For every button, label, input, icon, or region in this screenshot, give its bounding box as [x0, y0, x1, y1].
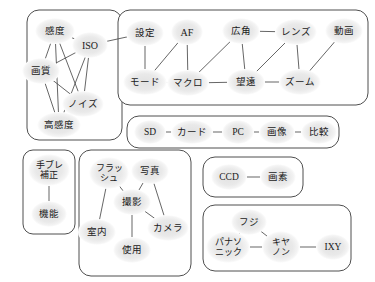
node-label-shitsunai: 室内 [87, 226, 107, 237]
node-label-ixy: IXY [325, 242, 342, 252]
node-label-camera: カメラ [153, 223, 183, 233]
node-tebure[interactable]: 手ブレ補正 [28, 154, 70, 186]
node-gazou[interactable]: 画像 [259, 120, 295, 144]
node-label-renzu: レンズ [281, 26, 311, 37]
node-flash[interactable]: フラッシュ [89, 157, 129, 189]
node-label-fuji: フジ [239, 217, 259, 227]
node-label-gaso: 画素 [268, 171, 288, 182]
node-iso[interactable]: ISO [72, 32, 108, 58]
node-label-koukando: 高感度 [44, 119, 74, 130]
node-label-kinou: 機能 [39, 208, 59, 219]
node-label-pc: PC [232, 127, 244, 137]
node-kinou[interactable]: 機能 [31, 201, 67, 227]
diagram-canvas: 感度ISO画質ノイズ高感度設定AF広角レンズ動画モードマクロ望遠ズームSDカード… [0, 0, 375, 282]
node-panasonic[interactable]: パナソニック [206, 231, 250, 263]
node-label-settei: 設定 [135, 27, 155, 38]
node-ccd[interactable]: CCD [211, 164, 247, 190]
node-label-shashin: 写真 [140, 165, 160, 176]
node-label-mode: モード [130, 77, 160, 87]
node-ixy[interactable]: IXY [316, 234, 350, 260]
node-label-iso: ISO [82, 40, 98, 51]
node-label-ccd: CCD [219, 172, 239, 182]
node-label-douga: 動画 [334, 26, 354, 36]
node-kando[interactable]: 感度 [35, 18, 75, 44]
node-renzu[interactable]: レンズ [275, 19, 317, 45]
node-label-gazou: 画像 [267, 126, 287, 137]
network-graph: 感度ISO画質ノイズ高感度設定AF広角レンズ動画モードマクロ望遠ズームSDカード… [0, 0, 375, 282]
node-sd[interactable]: SD [134, 120, 166, 144]
node-koukaku[interactable]: 広角 [222, 18, 260, 44]
node-label-panasonic: パナソニック [215, 237, 242, 257]
node-label-noizu: ノイズ [68, 98, 98, 109]
node-label-af: AF [181, 27, 194, 38]
node-shashin[interactable]: 写真 [131, 158, 169, 184]
node-label-gashitsu: 画質 [31, 65, 51, 76]
node-mode[interactable]: モード [123, 69, 167, 95]
node-noizu[interactable]: ノイズ [62, 91, 104, 117]
node-shitsunai[interactable]: 室内 [78, 219, 116, 245]
node-pc[interactable]: PC [222, 120, 254, 144]
node-label-hikaku: 比較 [309, 126, 329, 137]
node-label-koukaku: 広角 [231, 25, 251, 36]
node-label-zoom: ズーム [285, 76, 315, 87]
node-settei[interactable]: 設定 [126, 20, 164, 46]
node-kaado[interactable]: カード [171, 120, 213, 144]
node-label-bouen: 望遠 [236, 76, 256, 87]
node-koukando[interactable]: 高感度 [37, 112, 81, 138]
node-label-shiyou: 使用 [122, 244, 142, 255]
node-douga[interactable]: 動画 [325, 18, 363, 44]
node-canon[interactable]: キヤノン [262, 231, 300, 263]
node-gaso[interactable]: 画素 [260, 164, 296, 190]
node-af[interactable]: AF [171, 19, 203, 45]
node-shiyou[interactable]: 使用 [113, 237, 151, 263]
node-label-canon: キヤノン [272, 237, 290, 257]
node-label-satsuei: 撮影 [122, 196, 142, 207]
node-label-makuro: マクロ [173, 78, 203, 88]
node-zoom[interactable]: ズーム [279, 69, 321, 95]
node-label-kaado: カード [177, 127, 207, 137]
node-makuro[interactable]: マクロ [167, 70, 209, 96]
node-satsuei[interactable]: 撮影 [113, 189, 151, 215]
node-gashitsu[interactable]: 画質 [22, 58, 60, 84]
node-bouen[interactable]: 望遠 [227, 69, 265, 95]
node-fuji[interactable]: フジ [231, 209, 267, 235]
node-label-sd: SD [144, 127, 156, 137]
node-hikaku[interactable]: 比較 [301, 120, 337, 144]
node-camera[interactable]: カメラ [147, 215, 189, 241]
node-label-kando: 感度 [45, 25, 65, 36]
